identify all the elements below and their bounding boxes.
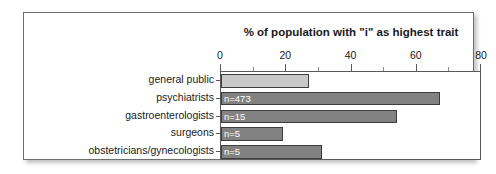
x-tick-mark xyxy=(416,64,417,71)
bar-row xyxy=(221,72,480,90)
x-axis-tick-marks xyxy=(220,64,481,71)
bar[interactable] xyxy=(221,110,397,124)
bar-row: n=5 xyxy=(221,125,480,143)
category-label: surgeons xyxy=(171,124,214,142)
x-tick-label: 20 xyxy=(279,49,291,61)
x-tick-label: 40 xyxy=(345,49,357,61)
plot-area: n=473n=15n=5n=5 xyxy=(220,71,481,160)
x-tick-mark xyxy=(285,64,286,71)
x-tick-label: 0 xyxy=(217,49,223,61)
bar-row: n=473 xyxy=(221,90,480,108)
chart-panel: % of population with "i" as highest trai… xyxy=(23,12,474,160)
x-tick-label: 80 xyxy=(475,49,487,61)
category-label: obstetricians/gynecologists xyxy=(89,142,214,160)
bar-row: n=5 xyxy=(221,143,480,161)
category-label: psychiatrists xyxy=(156,89,214,107)
chart-figure: % of population with "i" as highest trai… xyxy=(0,0,496,174)
chart-title: % of population with "i" as highest trai… xyxy=(220,26,482,38)
bar[interactable] xyxy=(221,74,309,88)
bar[interactable] xyxy=(221,92,440,106)
bar-row: n=15 xyxy=(221,108,480,126)
category-label: general public xyxy=(149,71,214,89)
bar[interactable] xyxy=(221,145,322,159)
x-tick-label: 60 xyxy=(410,49,422,61)
bar[interactable] xyxy=(221,127,283,141)
x-tick-mark xyxy=(220,64,221,71)
x-tick-mark xyxy=(480,64,481,71)
x-tick-mark xyxy=(351,64,352,71)
y-axis-category-labels: general publicpsychiatristsgastroenterol… xyxy=(54,71,217,160)
x-axis-tick-labels: 020406080 xyxy=(220,49,481,63)
category-label: gastroenterologists xyxy=(125,107,214,125)
